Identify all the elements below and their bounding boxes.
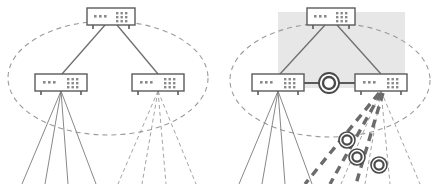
switch-left-ports xyxy=(314,15,327,18)
switch-left-ports xyxy=(94,15,107,18)
uplink-core-to-right xyxy=(117,25,158,74)
ring-inner-circle xyxy=(374,160,383,169)
switch-right-port-grid xyxy=(336,12,347,22)
access-link xyxy=(45,91,61,184)
ring-node-1[interactable] xyxy=(339,132,355,148)
access-link xyxy=(278,91,312,184)
switch-body xyxy=(355,74,407,91)
switch-body xyxy=(252,74,304,91)
switch-left-ports xyxy=(260,81,273,84)
switch-right-port-grid xyxy=(67,78,78,88)
topology-canvas xyxy=(0,0,434,184)
switch-body xyxy=(132,74,184,91)
switch-left-ports xyxy=(43,81,56,84)
access-link xyxy=(381,91,420,184)
access-link xyxy=(262,91,278,184)
access-link xyxy=(61,91,68,184)
ring-node-gateway[interactable] xyxy=(319,73,339,93)
switch-body xyxy=(35,74,87,91)
uplink-core-to-left xyxy=(62,25,105,74)
switch-right-port-grid xyxy=(284,78,295,88)
access-link xyxy=(158,91,196,184)
access-link xyxy=(278,91,285,184)
core-switch[interactable] xyxy=(87,8,135,29)
left-panel xyxy=(8,8,208,184)
access-link xyxy=(61,91,96,184)
ring-node-3[interactable] xyxy=(371,157,387,173)
switch-right-port-grid xyxy=(387,78,398,88)
network-topology-figure xyxy=(0,0,434,184)
switch-right-port-grid xyxy=(116,12,127,22)
ring-node-2[interactable] xyxy=(349,149,365,165)
access-link xyxy=(22,91,61,184)
access-fan-left xyxy=(22,91,96,184)
switch-left-ports xyxy=(363,81,376,84)
access-fan-right xyxy=(118,91,196,184)
ring-inner-circle xyxy=(342,135,351,144)
access-link xyxy=(239,91,278,184)
access-link xyxy=(142,91,158,184)
ring-inner-circle xyxy=(352,152,361,161)
ring-inner-circle xyxy=(323,77,335,89)
switch-left-ports xyxy=(140,81,153,84)
access-link xyxy=(118,91,158,184)
switch-right-port-grid xyxy=(164,78,175,88)
access-fan-left xyxy=(239,91,312,184)
access-link xyxy=(158,91,166,184)
